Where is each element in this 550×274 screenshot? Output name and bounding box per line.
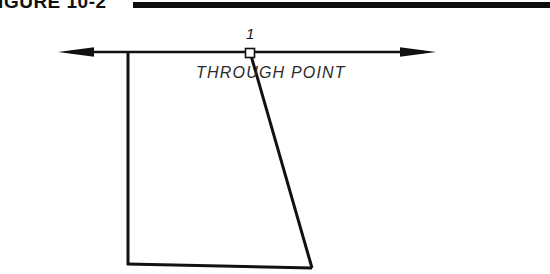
technical-drawing-canvas bbox=[0, 0, 550, 274]
left-arrowhead-icon bbox=[58, 47, 94, 57]
through-point-text-label: THROUGH POINT bbox=[196, 64, 346, 82]
slanted-through-line bbox=[250, 52, 312, 268]
figure-page: FIGURE 10-2 1 THROUGH POINT bbox=[0, 0, 550, 274]
right-arrowhead-icon bbox=[400, 47, 436, 57]
through-point-square-marker bbox=[246, 49, 255, 58]
bottom-base-line bbox=[127, 264, 312, 268]
point-number-label: 1 bbox=[246, 26, 254, 41]
